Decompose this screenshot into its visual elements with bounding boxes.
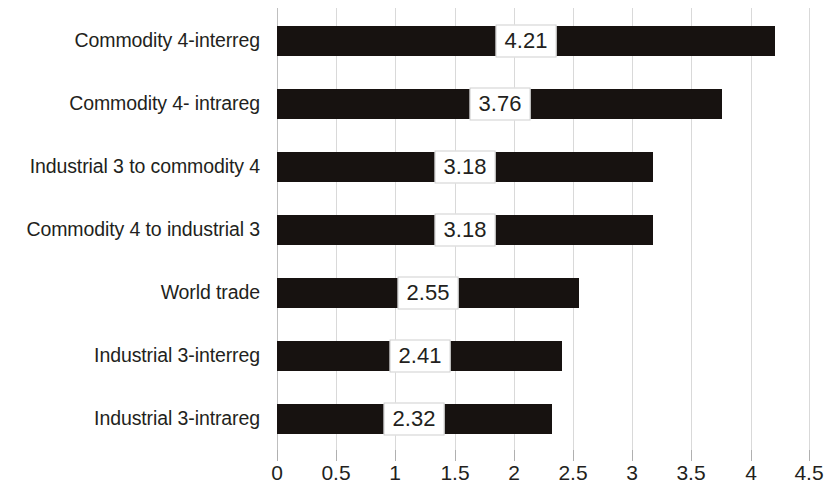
category-label: World trade bbox=[0, 283, 260, 303]
category-label: Commodity 4- intrareg bbox=[0, 94, 260, 114]
category-axis-labels: Commodity 4-interreg Commodity 4- intrar… bbox=[0, 0, 270, 450]
x-tick-label: 2.5 bbox=[558, 462, 587, 483]
category-label: Commodity 4-interreg bbox=[0, 31, 260, 51]
plot-area: 4.21 3.76 3.18 3.18 2.55 2.41 2.32 bbox=[277, 8, 810, 450]
category-label: Industrial 3-interreg bbox=[0, 346, 260, 366]
x-tick-label: 2 bbox=[508, 462, 520, 483]
x-tick-label: 3 bbox=[626, 462, 638, 483]
data-label: 3.18 bbox=[435, 151, 496, 184]
data-label: 3.18 bbox=[435, 214, 496, 247]
category-label: Industrial 3 to commodity 4 bbox=[0, 157, 260, 177]
bar-row bbox=[277, 152, 810, 182]
bar-row bbox=[277, 341, 810, 371]
x-tick bbox=[573, 450, 574, 461]
data-label: 4.21 bbox=[496, 25, 557, 58]
bar-row bbox=[277, 215, 810, 245]
bar-row bbox=[277, 89, 810, 119]
x-tick bbox=[632, 450, 633, 461]
bar-row bbox=[277, 278, 810, 308]
x-tick-label: 0.5 bbox=[321, 462, 350, 483]
horizontal-bar-chart: Commodity 4-interreg Commodity 4- intrar… bbox=[0, 0, 828, 484]
data-label: 2.32 bbox=[384, 403, 445, 436]
x-tick-label: 1 bbox=[389, 462, 401, 483]
x-tick-label: 0 bbox=[271, 462, 283, 483]
x-tick bbox=[691, 450, 692, 461]
x-tick-label: 3.5 bbox=[676, 462, 705, 483]
x-tick bbox=[336, 450, 337, 461]
data-label: 2.41 bbox=[390, 340, 451, 373]
category-label: Commodity 4 to industrial 3 bbox=[0, 220, 260, 240]
data-label: 3.76 bbox=[470, 88, 531, 121]
x-tick bbox=[395, 450, 396, 461]
x-tick-label: 4.5 bbox=[794, 462, 823, 483]
x-tick-label: 4 bbox=[745, 462, 757, 483]
x-tick bbox=[751, 450, 752, 461]
x-axis: 0 0.5 1 1.5 2 2.5 3 3.5 4 4.5 bbox=[277, 450, 810, 484]
x-tick bbox=[455, 450, 456, 461]
x-tick bbox=[277, 450, 278, 461]
data-label: 2.55 bbox=[398, 277, 459, 310]
x-tick-label: 1.5 bbox=[440, 462, 469, 483]
x-tick bbox=[514, 450, 515, 461]
bar-row bbox=[277, 404, 810, 434]
category-label: Industrial 3-intrareg bbox=[0, 409, 260, 429]
x-tick bbox=[809, 450, 810, 461]
